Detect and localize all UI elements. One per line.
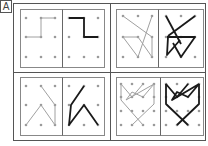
grid-dot — [68, 104, 71, 107]
gray-pattern-line — [138, 16, 152, 57]
grid-dot — [187, 110, 190, 113]
grid-dot — [25, 56, 28, 59]
puzzle-figure — [0, 0, 208, 146]
grid-dot — [180, 15, 183, 18]
gray-pattern-line — [41, 86, 55, 125]
grid-dot — [198, 110, 201, 113]
grid-dot — [68, 36, 71, 39]
grid-dot — [54, 85, 57, 88]
gray-pattern-line — [26, 18, 55, 37]
grid-dot — [97, 56, 100, 59]
grid-dot — [40, 124, 43, 127]
black-pattern-line — [69, 18, 98, 37]
grid-dot — [97, 85, 100, 88]
grid-dot — [176, 83, 179, 86]
gray-pattern-line — [121, 84, 143, 125]
grid-dot — [97, 104, 100, 107]
grid-dot — [165, 124, 168, 127]
black-pattern-line — [167, 37, 195, 57]
grid-dot — [165, 36, 168, 39]
figure-label: A — [0, 0, 12, 13]
gray-pattern-line — [126, 84, 154, 100]
grid-dot — [25, 104, 28, 107]
grid-dot — [120, 124, 123, 127]
grid-dot — [142, 110, 145, 113]
grid-dot — [25, 17, 28, 20]
gray-pattern-line — [123, 37, 138, 57]
grid-dot — [122, 56, 125, 59]
grid-dot — [165, 56, 168, 59]
grid-dot — [153, 124, 156, 127]
grid-dot — [198, 124, 201, 127]
grid-dot — [40, 56, 43, 59]
grid-dot — [25, 85, 28, 88]
grid-dot — [120, 110, 123, 113]
grid-dot — [153, 110, 156, 113]
panel-top-right — [117, 10, 204, 68]
grid-dot — [165, 110, 168, 113]
panel-bottom-right — [117, 78, 204, 136]
grid-dot — [83, 56, 86, 59]
gray-pattern-line — [123, 37, 152, 57]
grid-dot — [54, 56, 57, 59]
grid-dot — [131, 83, 134, 86]
grid-dot — [137, 15, 140, 18]
pattern-lines — [26, 16, 199, 125]
grid-dot — [97, 17, 100, 20]
grid-dot — [83, 124, 86, 127]
panel-top-left — [21, 10, 105, 68]
black-pattern-line — [69, 86, 98, 125]
panel-bottom-left — [21, 78, 105, 136]
gray-pattern-line — [26, 105, 55, 125]
grid-dot — [176, 110, 179, 113]
grid-dot — [68, 85, 71, 88]
grid-dot — [68, 56, 71, 59]
grid-dot — [54, 36, 57, 39]
grid-dot — [194, 56, 197, 59]
